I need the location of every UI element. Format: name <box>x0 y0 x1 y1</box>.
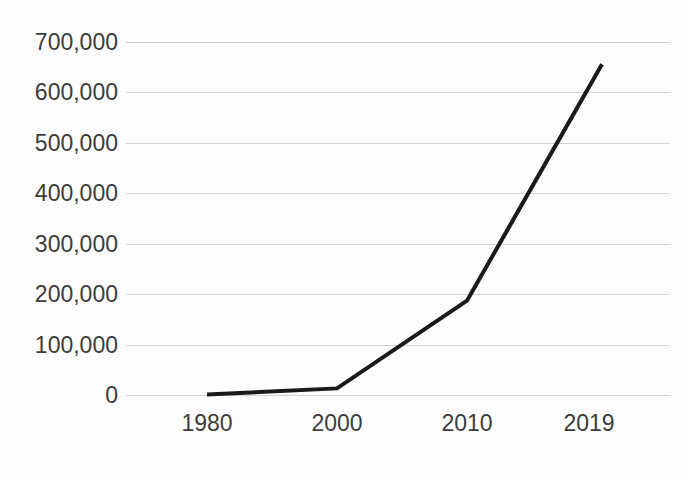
x-tick-label: 2010 <box>441 410 492 437</box>
x-axis: 1980 2000 2010 2019 <box>0 0 688 480</box>
x-tick-label: 2000 <box>311 410 362 437</box>
x-tick-label: 1980 <box>181 410 232 437</box>
line-chart: 700,000 600,000 500,000 400,000 300,000 … <box>0 0 688 480</box>
x-tick-label: 2019 <box>563 410 614 437</box>
